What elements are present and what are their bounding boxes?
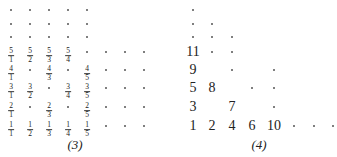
ellipsis-dot xyxy=(143,51,145,53)
ellipsis-dot xyxy=(105,69,107,71)
diagram-canvas: 51525354414345313234352123251112131415 (… xyxy=(0,0,337,157)
ellipsis-dot xyxy=(105,51,107,53)
ellipsis-dot xyxy=(143,69,145,71)
ellipsis-dot xyxy=(105,106,107,108)
fraction-cell: 13 xyxy=(46,114,52,138)
fraction-cell: 11 xyxy=(8,114,14,138)
ellipsis-dot xyxy=(143,106,145,108)
ellipsis-dot xyxy=(67,23,69,25)
ellipsis-dot xyxy=(86,51,88,53)
ellipsis-dot xyxy=(124,87,126,89)
ellipsis-dot xyxy=(86,23,88,25)
ellipsis-dot xyxy=(124,51,126,53)
ellipsis-dot xyxy=(211,23,213,25)
ellipsis-dot xyxy=(10,23,12,25)
ellipsis-dot xyxy=(293,125,295,127)
fraction-cell: 34 xyxy=(65,76,71,100)
ellipsis-dot xyxy=(67,9,69,11)
ellipsis-dot xyxy=(313,125,315,127)
number-cell: 5 xyxy=(190,81,197,95)
number-cell: 10 xyxy=(267,119,281,133)
ellipsis-dot xyxy=(48,23,50,25)
ellipsis-dot xyxy=(332,125,334,127)
ellipsis-dot xyxy=(231,69,233,71)
ellipsis-dot xyxy=(143,125,145,127)
ellipsis-dot xyxy=(29,23,31,25)
ellipsis-dot xyxy=(67,69,69,71)
number-cell: 2 xyxy=(209,119,216,133)
ellipsis-dot xyxy=(10,9,12,11)
ellipsis-dot xyxy=(29,106,31,108)
ellipsis-dot xyxy=(211,51,213,53)
fraction-cell: 43 xyxy=(46,58,52,82)
fraction-cell: 15 xyxy=(84,114,90,138)
ellipsis-dot xyxy=(143,87,145,89)
fraction-cell: 52 xyxy=(27,40,33,64)
ellipsis-dot xyxy=(105,125,107,127)
number-cell: 4 xyxy=(229,119,236,133)
ellipsis-dot xyxy=(124,69,126,71)
ellipsis-dot xyxy=(211,36,213,38)
caption-left: (3) xyxy=(67,137,82,153)
ellipsis-dot xyxy=(251,87,253,89)
fraction-cell: 14 xyxy=(65,114,71,138)
number-cell: 8 xyxy=(209,81,216,95)
fraction-cell: 32 xyxy=(27,76,33,100)
ellipsis-dot xyxy=(273,69,275,71)
ellipsis-dot xyxy=(48,87,50,89)
number-cell: 6 xyxy=(249,119,256,133)
caption-right: (4) xyxy=(251,137,266,153)
ellipsis-dot xyxy=(192,9,194,11)
ellipsis-dot xyxy=(192,36,194,38)
ellipsis-dot xyxy=(273,87,275,89)
ellipsis-dot xyxy=(231,36,233,38)
ellipsis-dot xyxy=(86,36,88,38)
number-cell: 7 xyxy=(229,100,236,114)
ellipsis-dot xyxy=(10,36,12,38)
number-cell: 1 xyxy=(190,119,197,133)
fraction-cell: 12 xyxy=(27,114,33,138)
ellipsis-dot xyxy=(29,36,31,38)
number-cell: 3 xyxy=(190,100,197,114)
ellipsis-dot xyxy=(273,106,275,108)
ellipsis-dot xyxy=(86,9,88,11)
ellipsis-dot xyxy=(67,106,69,108)
ellipsis-dot xyxy=(29,9,31,11)
ellipsis-dot xyxy=(67,36,69,38)
ellipsis-dot xyxy=(124,106,126,108)
ellipsis-dot xyxy=(48,36,50,38)
number-cell: 11 xyxy=(186,45,199,59)
fraction-cell: 54 xyxy=(65,40,71,64)
ellipsis-dot xyxy=(124,125,126,127)
ellipsis-dot xyxy=(192,23,194,25)
ellipsis-dot xyxy=(231,51,233,53)
ellipsis-dot xyxy=(29,69,31,71)
ellipsis-dot xyxy=(48,9,50,11)
number-cell: 9 xyxy=(190,63,197,77)
ellipsis-dot xyxy=(105,87,107,89)
